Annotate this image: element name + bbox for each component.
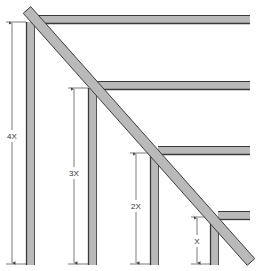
vertical-posts	[26, 22, 219, 265]
beam	[158, 146, 250, 155]
dimension-4x: 4X	[6, 22, 26, 264]
dimension-3x: 3X	[68, 88, 88, 264]
post	[88, 88, 97, 265]
dimension-label: X	[194, 237, 200, 246]
dimension-label: 2X	[131, 202, 141, 211]
brace-member	[23, 7, 254, 266]
post	[150, 153, 159, 265]
beam	[96, 81, 250, 90]
horizontal-beams	[34, 15, 250, 220]
dimension-label: 4X	[7, 132, 17, 141]
dimension-lines: 4X3X2XX	[6, 22, 211, 264]
stepped-frame-diagram: 4X3X2XX	[0, 0, 262, 271]
diagonal-brace	[23, 7, 254, 266]
beam	[34, 15, 250, 24]
dimension-label: 3X	[69, 169, 79, 178]
post	[26, 22, 35, 265]
dimension-x: X	[191, 217, 211, 264]
beam	[218, 211, 250, 220]
dimension-2x: 2X	[130, 153, 150, 264]
